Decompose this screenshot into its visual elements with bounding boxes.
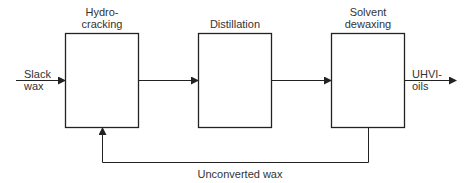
solvent-dewaxing-label-line1: Solvent [338,6,398,18]
hydrocracking-box [66,34,139,128]
hydrocracking-label: Hydro- cracking [72,6,132,30]
recycle-label: Unconverted wax [185,168,295,180]
output-label-line2: oils [412,80,442,92]
distillation-label-line1: Distillation [195,18,275,30]
hydrocracking-label-line2: cracking [72,18,132,30]
input-label: Slack wax [24,68,51,92]
distillation-label: Distillation [195,18,275,30]
output-label: UHVI- oils [412,68,442,92]
input-label-line2: wax [24,80,51,92]
hydrocracking-label-line1: Hydro- [72,6,132,18]
solvent-dewaxing-label: Solvent dewaxing [338,6,398,30]
solvent-dewaxing-box [332,34,405,128]
input-label-line1: Slack [24,68,51,80]
solvent-dewaxing-label-line2: dewaxing [338,18,398,30]
output-label-line1: UHVI- [412,68,442,80]
recycle-arrow [103,128,369,163]
distillation-box [199,34,272,128]
